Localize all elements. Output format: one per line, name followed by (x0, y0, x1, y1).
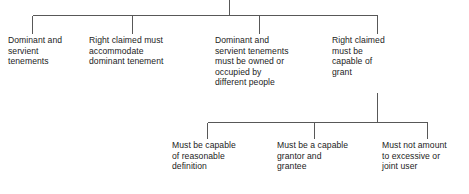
node-accommodate-dominant-tenement: Right claimed must accommodate dominant … (89, 35, 194, 67)
node-not-amount-to-excessive-or-joint-user: Must not amount to excessive or joint us… (382, 140, 467, 172)
node-capable-of-grant: Right claimed must be capable of grant (332, 35, 412, 77)
node-owned-or-occupied-by-different-people: Dominant and servient tenements must be … (215, 35, 325, 88)
node-capable-of-reasonable-definition: Must be capable of reasonable definition (172, 140, 272, 172)
node-capable-grantor-and-grantee: Must be a capable grantor and grantee (277, 140, 377, 172)
node-dominant-servient-tenements: Dominant and servient tenements (8, 35, 88, 67)
tree-diagram: Dominant and servient tenements Right cl… (0, 0, 469, 194)
